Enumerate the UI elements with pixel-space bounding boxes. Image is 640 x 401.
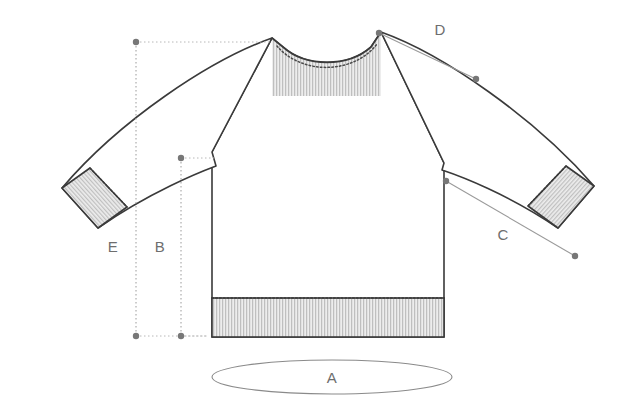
measure-label-b: B: [155, 238, 165, 255]
garment-illustration: E B D C A: [0, 0, 640, 401]
measure-label-a: A: [327, 369, 337, 386]
sweater-measurement-diagram: E B D C A: [0, 0, 640, 401]
measure-dot-c-end[interactable]: [572, 253, 578, 259]
measure-dot-c-start[interactable]: [443, 178, 449, 184]
measure-dot-e-top[interactable]: [133, 39, 139, 45]
measure-dot-b-top[interactable]: [178, 155, 184, 161]
measure-dot-d-end[interactable]: [473, 76, 479, 82]
measure-label-e: E: [108, 238, 118, 255]
measure-label-d: D: [434, 21, 445, 38]
measurement-ellipse-a[interactable]: A: [212, 360, 452, 394]
collar-rib: [265, 28, 390, 98]
measure-dot-b-bottom[interactable]: [178, 333, 184, 339]
bottom-hem-rib: [212, 298, 444, 337]
measure-dot-e-bottom[interactable]: [133, 333, 139, 339]
measure-label-c: C: [497, 226, 508, 243]
measure-dot-d-start[interactable]: [376, 30, 382, 36]
